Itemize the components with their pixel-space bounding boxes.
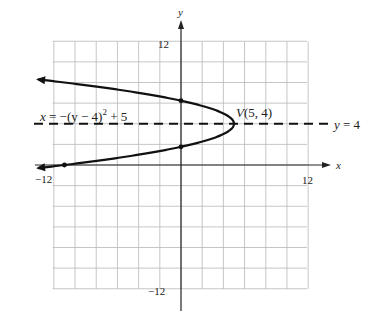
y-axis-arrow-icon [178,20,184,29]
point-x-intercept [62,163,67,168]
curve-arrow-icon [36,76,45,84]
parabola-graph: y x 12 −12 −12 12 x = −(y − 4)2 + 5 V(5,… [0,0,392,327]
y-min-tick-label: −12 [148,285,165,297]
x-min-tick-label: −12 [35,173,52,185]
y-axis-label: y [177,6,183,18]
x-axis-label: x [335,159,341,171]
point-y-intercept [179,144,184,149]
equation-label: x = −(y − 4)2 + 5 [39,107,127,124]
axis-of-symmetry-label: y = 4 [332,117,361,132]
vertex-label: V(5, 4) [236,105,272,120]
point-y-intercept [179,98,184,103]
equation-main: = −(y − 4) [46,109,103,124]
x-max-tick-label: 12 [302,174,313,186]
equation-tail: + 5 [107,109,127,124]
y-max-tick-label: 12 [158,38,169,50]
x-axis-arrow-icon [322,162,331,168]
